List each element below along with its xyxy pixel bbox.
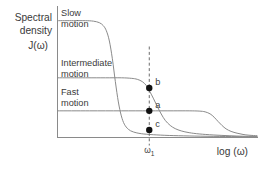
x-axis-title: log (ω): [217, 146, 248, 157]
point-label-c: c: [155, 119, 160, 129]
point-labels: b a c: [155, 77, 161, 129]
point-label-a: a: [155, 100, 161, 110]
intermediate-motion-label-line1: Intermediate: [61, 58, 112, 68]
data-point-a: [146, 108, 152, 114]
region-label-fast-motion: Fast motion: [61, 87, 89, 108]
data-point-b: [146, 85, 152, 91]
y-axis-title-line2: density: [20, 25, 53, 36]
slow-motion-label-line2: motion: [61, 19, 89, 29]
intermediate-motion-label-line2: motion: [61, 69, 89, 79]
y-axis-title-line3: J(ω): [28, 40, 48, 51]
spectral-density-chart: Spectral density J(ω) Slow motion Interm…: [0, 0, 265, 169]
y-axis-title-line1: Spectral: [15, 12, 52, 23]
fast-motion-label-line2: motion: [61, 98, 89, 108]
region-label-slow-motion: Slow motion: [61, 8, 89, 29]
point-label-b: b: [155, 77, 160, 87]
data-point-c: [146, 127, 152, 133]
slow-motion-label-line1: Slow: [61, 8, 81, 18]
y-axis-title: Spectral density J(ω): [15, 12, 53, 51]
omega-subscript: 1: [151, 150, 155, 157]
omega-1-tick-label: ω1: [144, 145, 155, 157]
region-label-intermediate-motion: Intermediate motion: [61, 58, 112, 79]
fast-motion-label-line1: Fast: [61, 87, 79, 97]
spectral-density-figure: Spectral density J(ω) Slow motion Interm…: [0, 0, 265, 169]
